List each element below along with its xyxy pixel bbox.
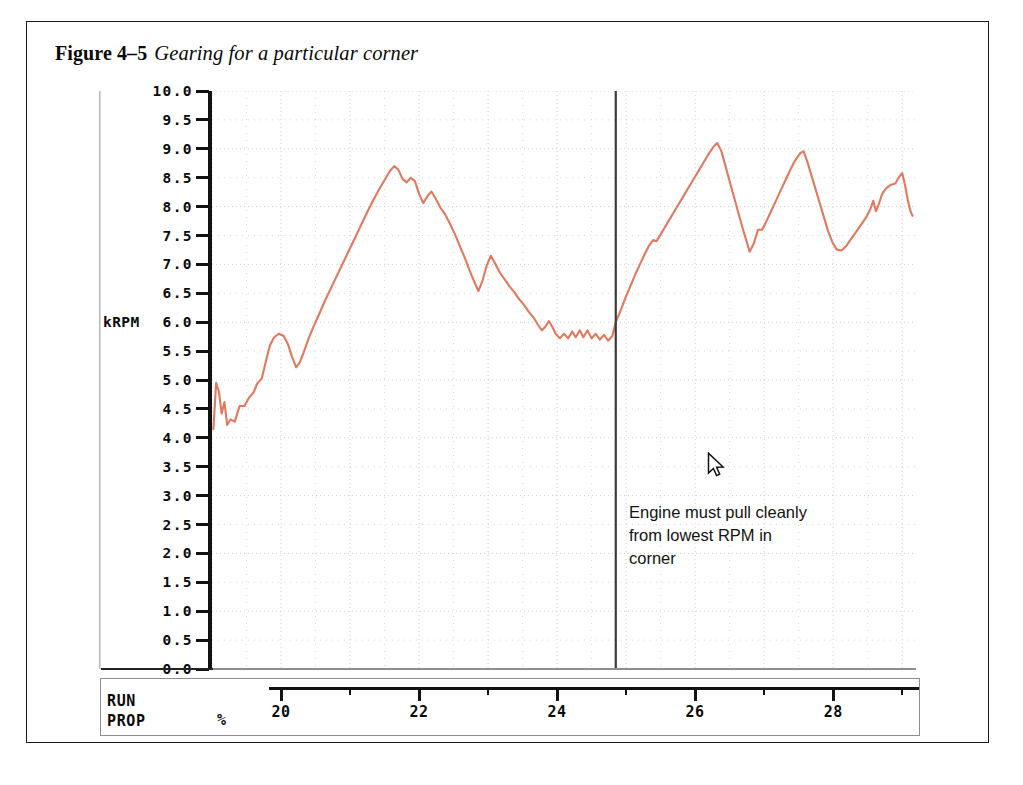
chart-panel: 10.09.59.08.58.07.57.06.56.05.55.04.54.0… <box>99 91 921 738</box>
plot-bottom-rule <box>101 668 916 670</box>
y-axis-tick <box>196 321 209 324</box>
y-axis-tick <box>196 263 209 266</box>
y-axis-tick <box>196 118 209 121</box>
x-axis-tick <box>694 687 697 701</box>
x-axis-minor-tick <box>487 687 489 695</box>
y-axis-tick <box>196 350 209 353</box>
y-axis-tick-label: 5.5 <box>99 344 193 358</box>
y-axis-tick-label: 3.0 <box>99 489 193 503</box>
y-axis-tick <box>196 436 209 439</box>
x-axis-tick-label: 28 <box>824 703 843 721</box>
y-axis-tick-label: 4.0 <box>99 431 193 445</box>
y-axis-tick-label: 3.5 <box>99 460 193 474</box>
y-axis-tick <box>196 292 209 295</box>
y-axis-tick <box>196 465 209 468</box>
y-axis-tick-label: 1.0 <box>99 604 193 618</box>
x-axis-tick-label: 26 <box>686 703 705 721</box>
y-axis-tick-label: 7.0 <box>99 257 193 271</box>
y-axis-tick-label: 8.5 <box>99 171 193 185</box>
x-axis-tick <box>280 687 283 701</box>
y-axis-tick-label: 8.0 <box>99 200 193 214</box>
x-axis-minor-tick <box>625 687 627 695</box>
x-axis-minor-tick <box>349 687 351 695</box>
mouse-pointer-icon <box>707 452 727 480</box>
figure-title: Gearing for a particular corner <box>154 42 418 64</box>
y-axis-tick <box>196 552 209 555</box>
x-axis-tick <box>832 687 835 701</box>
y-axis-tick-label: 0.5 <box>99 633 193 647</box>
x-axis-tick <box>418 687 421 701</box>
figure-page: Figure 4–5Gearing for a particular corne… <box>0 0 1023 785</box>
y-axis-tick-label: 2.0 <box>99 546 193 560</box>
engine-speed-trace <box>213 143 912 429</box>
x-axis-minor-tick <box>901 687 903 695</box>
figure-caption: Figure 4–5Gearing for a particular corne… <box>55 42 418 65</box>
gridlines <box>212 91 916 669</box>
x-axis-unit-label: % <box>217 711 226 729</box>
x-axis-tick <box>556 687 559 701</box>
x-axis-tick-label: 24 <box>548 703 567 721</box>
annotation-line-2: from lowest RPM in <box>629 524 859 547</box>
trace-svg <box>212 91 916 669</box>
annotation-line-1: Engine must pull cleanly <box>629 501 859 524</box>
y-axis-tick <box>196 90 209 93</box>
y-axis-tick-label: 4.5 <box>99 402 193 416</box>
annotation-line-3: corner <box>629 547 859 570</box>
y-axis-tick-label: 9.5 <box>99 113 193 127</box>
x-axis-line <box>269 687 919 690</box>
y-axis-tick <box>196 176 209 179</box>
y-axis-tick <box>196 581 209 584</box>
y-axis-tick-label: 10.0 <box>99 84 193 98</box>
plot-area[interactable] <box>212 91 916 669</box>
y-axis-tick <box>196 234 209 237</box>
y-axis-tick-label: 6.5 <box>99 286 193 300</box>
x-axis-name-label: RUN PROP <box>107 691 146 731</box>
y-axis-tick <box>196 379 209 382</box>
x-axis-minor-tick <box>763 687 765 695</box>
figure-number: Figure 4–5 <box>55 42 147 64</box>
y-axis-unit-label: kRPM <box>103 315 140 330</box>
y-axis-tick <box>196 610 209 613</box>
annotation-text: Engine must pull cleanly from lowest RPM… <box>629 501 859 570</box>
y-axis-tick <box>196 147 209 150</box>
y-axis-tick-label: 1.5 <box>99 575 193 589</box>
y-axis-tick <box>196 407 209 410</box>
x-axis-tick-label: 20 <box>271 703 290 721</box>
x-axis-tick-label: 22 <box>410 703 429 721</box>
y-axis-tick-label: 7.5 <box>99 229 193 243</box>
y-axis-tick <box>196 639 209 642</box>
y-axis-tick-label: 9.0 <box>99 142 193 156</box>
y-axis-tick <box>196 523 209 526</box>
plot-bottom-rule-dark <box>101 668 213 670</box>
y-axis-tick-label: 2.5 <box>99 518 193 532</box>
y-axis-tick-label: 5.0 <box>99 373 193 387</box>
y-axis-tick <box>196 205 209 208</box>
y-axis-tick <box>196 494 209 497</box>
